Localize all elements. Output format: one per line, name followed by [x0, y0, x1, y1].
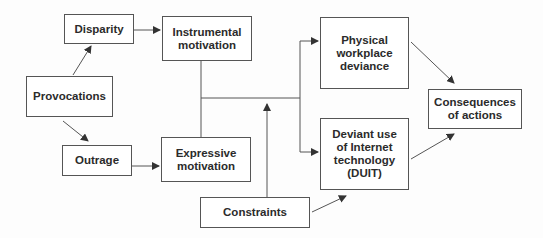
node-label: Provocations — [33, 90, 106, 103]
node-instrumental-motivation: Instrumental motivation — [162, 16, 252, 61]
node-label: Outrage — [75, 154, 119, 167]
node-expressive-motivation: Expressive motivation — [161, 137, 251, 182]
node-label: Instrumental motivation — [169, 26, 245, 52]
node-disparity: Disparity — [64, 14, 134, 44]
diagram-canvas: Disparity Provocations Outrage Instrumen… — [0, 0, 543, 238]
edge-provocations-disparity — [73, 46, 91, 75]
node-outrage: Outrage — [62, 145, 132, 176]
edge-physical-consequences — [411, 42, 454, 83]
edge-duit-consequences — [411, 134, 454, 159]
node-label: Consequences of actions — [434, 96, 516, 122]
node-constraints: Constraints — [200, 197, 310, 228]
node-physical-workplace-deviance: Physical workplace deviance — [320, 17, 409, 89]
node-label: Disparity — [74, 23, 123, 36]
node-label: Deviant use of Internet technology (DUIT… — [327, 128, 402, 180]
node-duit: Deviant use of Internet technology (DUIT… — [320, 118, 409, 190]
node-provocations: Provocations — [26, 76, 113, 117]
edge-constraints-duit — [312, 196, 346, 212]
edge-provocations-outrage — [63, 121, 88, 141]
node-label: Physical workplace deviance — [331, 34, 398, 73]
node-consequences-of-actions: Consequences of actions — [428, 89, 522, 129]
node-label: Expressive motivation — [172, 147, 240, 173]
node-label: Constraints — [223, 206, 287, 219]
